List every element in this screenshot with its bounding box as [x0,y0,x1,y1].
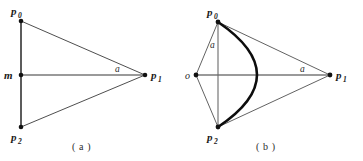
panel-a-vertex-p1 [143,73,148,78]
panel-a-caption: ( a ) [72,141,91,153]
panel-a-vertex-m [19,73,24,78]
panel-b-label-p0-subscript: 0 [214,12,218,21]
panel-b-label-o: o [185,70,190,81]
panel-b-label-distance-a-right: a [300,64,305,74]
panel-a-label-p2-text: p [10,131,17,143]
figure-svg: p 0 m p 2 p 1 a ( a ) [0,0,363,161]
panel-a-label-distance-a: a [115,64,120,74]
panel-a-label-p2-subscript: 2 [17,137,22,146]
panel-b-vertex-p1 [328,73,333,78]
panel-b-caption: ( b ) [256,141,276,153]
panel-a-label-p1-subscript: 1 [158,75,162,84]
figure-background [0,0,363,161]
panel-b-vertex-p2 [216,125,221,130]
panel-b-label-p0-text: p [206,6,213,18]
panel-b-vertex-o [194,73,199,78]
panel-a-label-p1-text: p [150,69,157,81]
panel-b-label-distance-a-left: a [210,40,215,50]
panel-a-label-p0-text: p [10,5,17,17]
panel-a-label-p0-subscript: 0 [18,11,22,20]
panel-b-label-p1-subscript: 1 [343,75,347,84]
panel-b-label-p1-text: p [335,69,342,81]
figure-container: p 0 m p 2 p 1 a ( a ) [0,0,363,161]
panel-a-vertex-p2 [19,125,24,130]
panel-b-label-p2-subscript: 2 [213,137,218,146]
panel-b-label-p2-text: p [206,131,213,143]
panel-a-label-m: m [4,69,13,81]
